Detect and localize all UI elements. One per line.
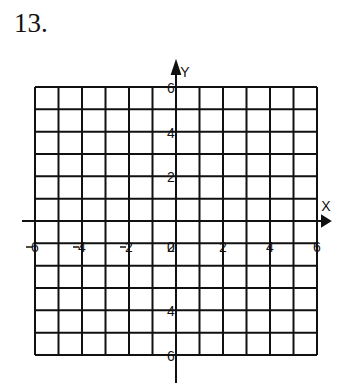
x-tick-label: 6	[313, 239, 321, 255]
x-tick-label: 2	[219, 239, 227, 255]
y-tick-label: 4	[167, 303, 175, 319]
y-tick-label: 2	[167, 239, 175, 255]
y-tick-label: 6	[167, 80, 175, 96]
x-tick-label: 4	[78, 239, 86, 255]
x-axis-label: X	[321, 198, 331, 214]
y-tick-label: 4	[167, 125, 175, 141]
y-axis-label: Y	[180, 64, 190, 80]
y-axis-arrow-icon	[172, 62, 180, 74]
x-tick-label: 6	[31, 239, 39, 255]
x-axis-arrow-icon	[322, 216, 330, 226]
x-tick-label: 4	[266, 239, 274, 255]
coordinate-grid: XY6420246642246	[0, 0, 344, 391]
y-tick-label: 2	[167, 169, 175, 185]
y-tick-label: 6	[167, 348, 175, 364]
x-tick-label: 2	[125, 239, 133, 255]
